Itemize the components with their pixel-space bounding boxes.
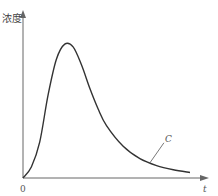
series-c-line — [23, 43, 190, 178]
annotation-leader-line — [150, 143, 164, 163]
y-axis-label: 浓度 — [2, 12, 22, 24]
annotation-c-label: C — [165, 134, 172, 144]
x-axis-label: t — [203, 184, 207, 194]
chart: 浓度 t 0 C — [0, 0, 218, 196]
x-axis-arrow — [200, 175, 209, 181]
origin-label: 0 — [20, 184, 26, 194]
